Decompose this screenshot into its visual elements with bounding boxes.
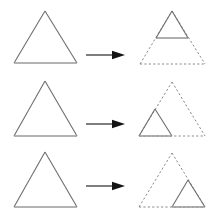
triangle-subdivision-figure <box>0 0 213 217</box>
row-2-source-right-edge <box>45 81 77 136</box>
row-3-sub-right-edge <box>188 180 205 207</box>
row-2 <box>14 81 205 136</box>
row-3-arrow-head-icon <box>112 182 125 190</box>
row-3-outline-left-edge <box>139 153 172 207</box>
row-3-result-outline <box>139 153 205 207</box>
row-1-source-left-edge <box>14 11 45 63</box>
row-1-arrow <box>86 51 125 59</box>
row-2-sub-triangle-bottom-left <box>139 109 172 136</box>
row-3-sub-triangle-bottom-right <box>172 180 205 207</box>
row-1-source-right-edge <box>45 11 77 63</box>
row-1-source-triangle <box>14 11 77 63</box>
row-2-result-outline <box>139 82 205 136</box>
row-1 <box>14 11 205 64</box>
row-2-source-triangle <box>14 81 77 136</box>
row-3 <box>14 152 205 207</box>
row-2-arrow-head-icon <box>112 120 125 128</box>
row-1-sub-right-edge <box>172 11 188 38</box>
row-1-sub-triangle-top <box>156 11 188 38</box>
row-1-sub-left-edge <box>156 11 172 38</box>
row-2-sub-right-edge <box>155 109 172 136</box>
row-2-sub-left-edge <box>139 109 155 136</box>
row-2-arrow <box>86 120 125 128</box>
row-3-arrow <box>86 182 125 190</box>
row-1-arrow-head-icon <box>112 51 125 59</box>
row-3-source-left-edge <box>14 152 45 207</box>
row-3-source-right-edge <box>45 152 77 207</box>
row-3-source-triangle <box>14 152 77 207</box>
row-2-outline-right-edge <box>172 82 205 136</box>
row-2-source-left-edge <box>14 81 45 136</box>
row-3-sub-left-edge <box>172 180 188 207</box>
figure-canvas <box>0 0 213 217</box>
